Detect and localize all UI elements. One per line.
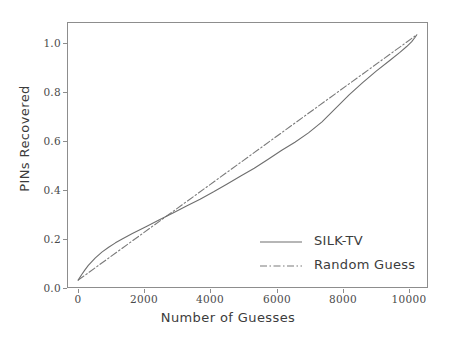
legend-label-silk-tv: SILK-TV [314, 233, 363, 248]
x-axis-label: Number of Guesses [0, 310, 456, 325]
legend-item-silk-tv: SILK-TV [258, 231, 428, 255]
y-axis-label: PINs Recovered [17, 29, 32, 249]
legend-line-sample-solid [258, 231, 304, 253]
x-tick-label: 6000 [247, 293, 307, 305]
legend-label-random-guess: Random Guess [314, 257, 415, 272]
x-tick-label: 8000 [313, 293, 373, 305]
x-tick-label: 0 [48, 293, 108, 305]
chart-legend: SILK-TV Random Guess [258, 231, 428, 279]
x-tick-label: 2000 [114, 293, 174, 305]
x-tick-label: 10000 [379, 293, 439, 305]
chart-figure: 0.0 0.2 0.4 0.6 0.8 1.0 0 2000 4000 6000… [0, 0, 456, 341]
legend-line-sample-dashdot [258, 255, 304, 277]
x-tick-label: 4000 [180, 293, 240, 305]
legend-item-random-guess: Random Guess [258, 255, 428, 279]
y-tick-mark [63, 288, 67, 289]
